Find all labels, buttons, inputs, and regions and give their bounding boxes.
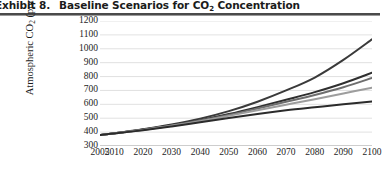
y-tick-label: 1000 [64,44,98,53]
x-tick-label: 2040 [191,147,210,157]
y-tick-label: 900 [64,58,98,67]
y-axis-title-main: Atmospheric CO [24,24,35,95]
title-divider-thin [0,15,380,16]
x-tick-label: 2100 [363,147,382,157]
y-tick-label: 700 [64,85,98,94]
title-tail: Concentration [214,0,300,11]
y-tick-label: 600 [64,99,98,108]
x-tick-label: 2020 [133,147,152,157]
x-tick-label: 2080 [305,147,324,157]
page-title: Exhibit 8.Baseline Scenarios for CO2 Con… [0,0,300,11]
y-tick-label: 800 [64,72,98,81]
x-axis-tick-labels: 2005201020202030204020502060207020802090… [0,147,380,161]
plot-area [100,21,372,146]
x-tick-label: 2070 [277,147,296,157]
x-tick-label: 2010 [105,147,124,157]
data-series-line [100,73,372,135]
line-chart-canvas [100,21,372,146]
y-axis-title-subscript: 2 [28,20,37,24]
figure-title-bar: Exhibit 8.Baseline Scenarios for CO2 Con… [0,0,380,13]
y-axis-title-unit: (ppm) [24,0,35,20]
y-axis-tick-labels: 120011001000900800700600500400300 [62,0,98,169]
y-tick-label: 400 [64,127,98,136]
y-tick-label: 1100 [64,30,98,39]
y-tick-label: 1200 [64,16,98,25]
x-tick-label: 2030 [162,147,181,157]
x-tick-label: 2050 [219,147,238,157]
y-tick-label: 500 [64,113,98,122]
x-tick-label: 2060 [248,147,267,157]
data-series-group [100,39,372,135]
gridlines [100,21,372,146]
title-subscript: 2 [209,5,214,13]
x-tick-label: 2090 [334,147,353,157]
data-series-line [100,88,372,135]
y-axis-title: Atmospheric CO2 (ppm) [24,0,35,99]
